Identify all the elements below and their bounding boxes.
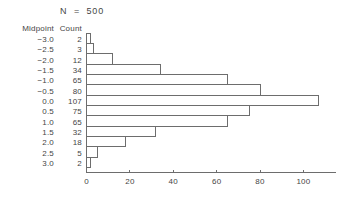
cell-midpoint: 0.5: [0, 107, 54, 117]
figure-title: N = 500: [0, 6, 164, 16]
cell-midpoint: 2.0: [0, 138, 54, 148]
histogram-bar: [87, 137, 126, 147]
cell-midpoint: −1.5: [0, 66, 54, 76]
histogram-figure: N = 500 Midpoint Count −3.02−2.53−2.012−…: [0, 0, 358, 199]
histogram-bar: [87, 85, 261, 95]
table-row: 1.532: [0, 128, 86, 138]
midpoint-count-table: Midpoint Count −3.02−2.53−2.012−1.534−1.…: [0, 24, 86, 169]
cell-midpoint: 0.0: [0, 97, 54, 107]
histogram-bar: [87, 105, 250, 115]
cell-count: 5: [54, 149, 82, 159]
cell-count: 65: [54, 118, 82, 128]
cell-midpoint: −0.5: [0, 87, 54, 97]
cell-midpoint: −1.0: [0, 76, 54, 86]
cell-midpoint: 1.0: [0, 118, 54, 128]
histogram-bar: [87, 157, 91, 167]
histogram-bar: [87, 64, 161, 74]
table-row: −0.580: [0, 87, 86, 97]
histogram-bar: [87, 33, 91, 43]
column-header-midpoint: Midpoint: [0, 24, 54, 33]
table-header-row: Midpoint Count: [0, 24, 86, 35]
histogram-bar: [87, 116, 228, 126]
histogram-bar: [87, 54, 113, 64]
column-header-count: Count: [54, 24, 82, 33]
x-axis-tick-label: 20: [117, 177, 143, 186]
table-row: 0.0107: [0, 97, 86, 107]
table-row: 2.55: [0, 149, 86, 159]
cell-count: 34: [54, 66, 82, 76]
x-axis-tick-label: 0: [74, 177, 100, 186]
cell-count: 18: [54, 138, 82, 148]
table-row: −1.534: [0, 66, 86, 76]
histogram-bar: [87, 126, 156, 136]
table-row: 3.02: [0, 159, 86, 169]
cell-midpoint: 2.5: [0, 149, 54, 159]
cell-midpoint: −2.5: [0, 45, 54, 55]
table-row: 2.018: [0, 138, 86, 148]
histogram-bar: [87, 147, 98, 157]
cell-count: 75: [54, 107, 82, 117]
cell-count: 80: [54, 87, 82, 97]
cell-midpoint: −2.0: [0, 56, 54, 66]
table-row: −1.065: [0, 76, 86, 86]
table-row: −2.012: [0, 56, 86, 66]
bars-group: [87, 33, 319, 168]
x-axis-tick-label: 60: [204, 177, 230, 186]
x-axis-tick-label: 100: [291, 177, 317, 186]
axis-group: [87, 33, 337, 173]
table-row: 0.575: [0, 107, 86, 117]
cell-count: 107: [54, 97, 82, 107]
cell-count: 2: [54, 35, 82, 45]
x-axis-tick-label: 40: [160, 177, 186, 186]
cell-midpoint: −3.0: [0, 35, 54, 45]
cell-count: 65: [54, 76, 82, 86]
histogram-bar: [87, 95, 319, 105]
table-row: 1.065: [0, 118, 86, 128]
cell-midpoint: 1.5: [0, 128, 54, 138]
cell-count: 2: [54, 159, 82, 169]
table-row: −2.53: [0, 45, 86, 55]
histogram-bar: [87, 43, 94, 53]
cell-count: 32: [54, 128, 82, 138]
cell-count: 12: [54, 56, 82, 66]
table-row: −3.02: [0, 35, 86, 45]
histogram-bar: [87, 74, 228, 84]
cell-count: 3: [54, 45, 82, 55]
x-axis-tick-label: 80: [247, 177, 273, 186]
cell-midpoint: 3.0: [0, 159, 54, 169]
